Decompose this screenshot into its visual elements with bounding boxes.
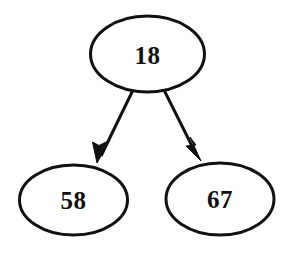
arrowhead-icon-left <box>93 140 111 163</box>
tree-node-root[interactable]: 18 <box>91 16 205 92</box>
tree-diagram: 18 58 67 <box>0 0 291 255</box>
tree-diagram-canvas: 18 58 67 <box>0 0 291 255</box>
tree-node-right-child[interactable]: 67 <box>166 163 274 235</box>
node-label-right-child: 67 <box>207 186 233 213</box>
edge-root-to-right-child <box>164 90 201 161</box>
tree-node-left-child[interactable]: 58 <box>20 165 128 235</box>
edge-line-root-right <box>164 90 196 154</box>
node-label-left-child: 58 <box>61 187 87 214</box>
node-label-root: 18 <box>135 42 161 69</box>
edge-root-to-left-child <box>93 90 134 163</box>
